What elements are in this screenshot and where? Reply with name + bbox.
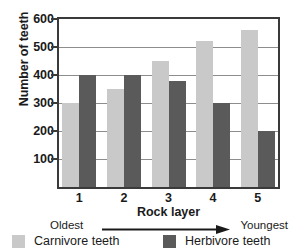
bar-group	[241, 19, 275, 187]
y-axis-tick-mark	[51, 102, 57, 104]
bar-group	[107, 19, 141, 187]
x-axis-tick-label: 5	[238, 191, 278, 205]
x-axis-tick-label: 4	[193, 191, 233, 205]
bar-carnivore-layer-3	[152, 61, 169, 187]
bar-chart-figure: Number of teeth Rock layer Oldest Younge…	[0, 0, 295, 251]
bars-layer	[57, 17, 280, 189]
bar-herbivore-layer-3	[169, 81, 186, 187]
bar-group	[196, 19, 230, 187]
youngest-label: Youngest	[240, 219, 288, 231]
y-axis-tick-label: 100	[14, 153, 54, 166]
legend-label-herbivore: Herbivore teeth	[185, 234, 270, 248]
y-axis-tick-label: 500	[14, 41, 54, 54]
y-axis-tick-label: 200	[14, 125, 54, 138]
chart-legend: Carnivore teeth Herbivore teeth	[0, 233, 295, 251]
y-axis-tick-mark	[51, 74, 57, 76]
legend-item-herbivore: Herbivore teeth	[163, 233, 270, 249]
bar-herbivore-layer-1	[79, 75, 96, 187]
x-axis-title: Rock layer	[57, 205, 280, 219]
bar-herbivore-layer-4	[213, 103, 230, 187]
x-axis-tick-label: 1	[59, 191, 99, 205]
bar-carnivore-layer-5	[241, 30, 258, 187]
legend-item-carnivore: Carnivore teeth	[12, 233, 119, 249]
bar-herbivore-layer-2	[124, 75, 141, 187]
bar-group	[152, 19, 186, 187]
y-axis-tick-label: 300	[14, 97, 54, 110]
herbivore-swatch-icon	[163, 235, 176, 248]
y-axis-tick-mark	[51, 18, 57, 20]
y-axis-tick-mark	[51, 46, 57, 48]
bar-carnivore-layer-2	[107, 89, 124, 187]
bar-group	[62, 19, 96, 187]
oldest-label: Oldest	[50, 219, 83, 231]
bar-carnivore-layer-4	[196, 41, 213, 187]
y-axis-tick-label: 400	[14, 69, 54, 82]
y-axis-tick-mark	[51, 130, 57, 132]
y-axis-tick-label: 600	[14, 13, 54, 26]
carnivore-swatch-icon	[12, 235, 25, 248]
bar-carnivore-layer-1	[62, 103, 79, 187]
legend-label-carnivore: Carnivore teeth	[34, 234, 119, 248]
y-axis-tick-mark	[51, 158, 57, 160]
age-direction-row: Oldest Youngest	[50, 218, 288, 234]
x-axis-tick-label: 2	[104, 191, 144, 205]
x-axis-tick-label: 3	[149, 191, 189, 205]
bar-herbivore-layer-5	[258, 131, 275, 187]
